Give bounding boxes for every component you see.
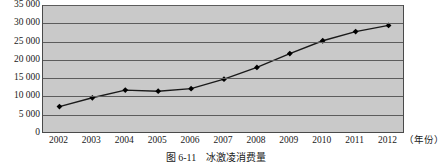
data-point-marker bbox=[155, 88, 161, 94]
y-axis-tick-label: 30 000 bbox=[0, 18, 40, 28]
y-axis-tick-label: 35 000 bbox=[0, 0, 40, 10]
plot-area bbox=[42, 5, 404, 133]
data-point-marker bbox=[188, 86, 194, 92]
gridline bbox=[43, 42, 403, 43]
figure-caption: 图 6-11冰激凌消费量 bbox=[0, 152, 432, 164]
gridline bbox=[43, 96, 403, 97]
y-axis-tick-label: 20 000 bbox=[0, 55, 40, 65]
y-axis-tick-label: 15 000 bbox=[0, 73, 40, 83]
y-axis-tick-label: 10 000 bbox=[0, 91, 40, 101]
data-point-marker bbox=[57, 104, 63, 110]
x-axis-tick-label: 2012 bbox=[368, 135, 408, 146]
y-axis-tick-label: 5 000 bbox=[0, 110, 40, 120]
x-axis: （年份） 20022003200420052006200720082009201… bbox=[0, 135, 432, 149]
caption-title: 冰激凌消费量 bbox=[206, 152, 266, 163]
y-axis-tick-label: 25 000 bbox=[0, 37, 40, 47]
y-axis: 05 00010 00015 00020 00025 00030 00035 0… bbox=[0, 0, 40, 145]
gridline bbox=[43, 78, 403, 79]
data-point-marker bbox=[221, 76, 227, 82]
gridline bbox=[43, 5, 403, 6]
data-point-marker bbox=[254, 65, 260, 71]
x-axis-unit-label: （年份） bbox=[404, 135, 442, 146]
gridline bbox=[43, 23, 403, 24]
series-line bbox=[59, 25, 388, 106]
gridline bbox=[43, 115, 403, 116]
gridline bbox=[43, 60, 403, 61]
caption-number: 图 6-11 bbox=[166, 152, 196, 163]
data-point-marker bbox=[122, 87, 128, 93]
data-point-marker bbox=[287, 51, 293, 57]
data-point-marker bbox=[353, 29, 359, 35]
